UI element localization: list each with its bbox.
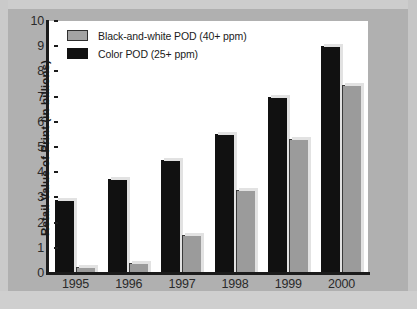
x-tick-label-1996: 1996 [115,277,142,291]
y-tick-label-10: 10 [24,14,44,28]
y-tick-mark-0 [54,272,58,274]
bar-bw-pod-2000[interactable] [342,85,362,273]
x-axis-line [46,272,370,275]
y-tick-mark-3 [54,196,58,198]
y-tick-mark-6 [54,121,58,123]
bar-bw-pod-1997[interactable] [182,235,202,273]
bar-color-pod-1998[interactable] [215,134,235,273]
x-axis-labels: 199519961997199819992000 [49,277,368,299]
y-tick-mark-1 [54,247,58,249]
x-tick-label-1995: 1995 [62,277,89,291]
legend-label: Color POD (25+ ppm) [98,48,198,60]
figure-root: 012345678910 Retail Value of Print (in b… [0,0,417,309]
black-square-swatch-icon [67,48,88,59]
legend-label: Black-and-white POD (40+ ppm) [98,30,247,42]
chart-legend: Black-and-white POD (40+ ppm)Color POD (… [67,28,297,64]
legend-item-bw-pod[interactable]: Black-and-white POD (40+ ppm) [67,28,297,43]
page-edge-right [408,0,417,309]
y-tick-mark-7 [54,96,58,98]
y-tick-mark-9 [54,45,58,47]
y-tick-mark-5 [54,146,58,148]
y-tick-mark-4 [54,171,58,173]
gray-square-swatch-icon [67,30,88,41]
x-tick-label-1998: 1998 [222,277,249,291]
y-tick-mark-8 [54,70,58,72]
bar-color-pod-2000[interactable] [321,46,341,273]
bar-color-pod-1995[interactable] [55,200,75,273]
bar-chart: 012345678910 Retail Value of Print (in b… [8,9,408,291]
bar-color-pod-1999[interactable] [268,97,288,273]
page-edge-left [0,0,8,309]
x-tick-label-1999: 1999 [275,277,302,291]
page-edge-top [0,0,417,9]
bar-color-pod-1996[interactable] [108,179,128,274]
x-tick-label-1997: 1997 [168,277,195,291]
y-axis-title: Retail Value of Print (in billions) [39,48,51,248]
bar-color-pod-1997[interactable] [161,160,181,273]
y-tick-mark-10 [54,20,58,22]
y-tick-label-0: 0 [24,266,44,280]
bar-bw-pod-1998[interactable] [236,190,256,273]
x-tick-label-2000: 2000 [328,277,355,291]
y-tick-mark-2 [54,222,58,224]
legend-item-color-pod[interactable]: Color POD (25+ ppm) [67,46,297,61]
bar-bw-pod-1999[interactable] [289,139,309,273]
bar-group-2000 [315,21,368,273]
